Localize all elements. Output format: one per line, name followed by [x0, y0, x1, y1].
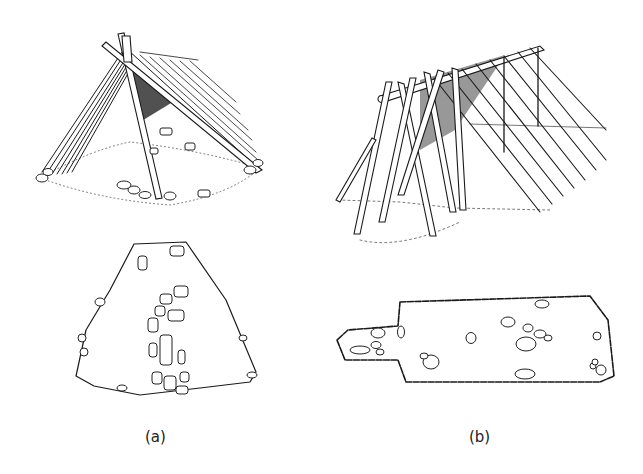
- shelter-b-plan: [337, 296, 614, 382]
- illustration-canvas: [0, 0, 643, 474]
- panel-label-a: (a): [145, 428, 166, 446]
- plan-a-stones: [78, 246, 257, 394]
- shelter-a-elevation: [36, 33, 263, 205]
- shelter-a-plan: [76, 242, 257, 395]
- shelter-b-elevation: [336, 46, 606, 243]
- plan-a-outline: [76, 242, 256, 395]
- plan-b-stones: [350, 300, 606, 379]
- left-slope-poles: [42, 52, 130, 174]
- panel-label-b: (b): [469, 428, 490, 446]
